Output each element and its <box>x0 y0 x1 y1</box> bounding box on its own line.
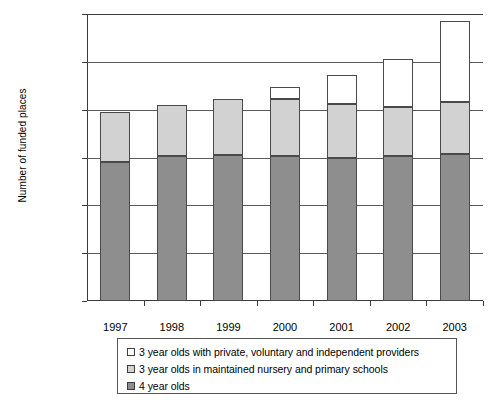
bar-segment <box>383 107 413 157</box>
plot-area: 0200,000400,000600,000800,0001,000,0001,… <box>87 14 483 301</box>
x-tick-mark <box>483 301 484 306</box>
x-tick-mark <box>200 301 201 306</box>
bar-segment <box>327 104 357 158</box>
legend-item: 3 year olds in maintained nursery and pr… <box>127 361 456 377</box>
bar-2003 <box>440 14 470 301</box>
legend-swatch-icon <box>127 365 135 373</box>
bar-segment <box>213 99 243 155</box>
y-tick-mark <box>82 110 87 111</box>
x-tick-mark <box>313 301 314 306</box>
bar-segment <box>270 87 300 99</box>
legend-label: 3 year olds in maintained nursery and pr… <box>139 363 388 375</box>
x-tick-mark <box>144 301 145 306</box>
y-tick-mark <box>82 62 87 63</box>
bar-segment <box>440 154 470 301</box>
bar-segment <box>157 105 187 156</box>
y-tick-mark <box>82 253 87 254</box>
bar-1998 <box>157 14 187 301</box>
x-tick-mark <box>426 301 427 306</box>
y-tick-mark <box>82 14 87 15</box>
bar-segment <box>327 158 357 302</box>
bar-1999 <box>213 14 243 301</box>
legend-swatch-icon <box>127 348 135 356</box>
x-tick-label: 2000 <box>255 321 315 333</box>
x-tick-mark <box>257 301 258 306</box>
bar-segment <box>100 112 130 162</box>
bar-segment <box>100 162 130 301</box>
bar-segment <box>383 156 413 301</box>
bar-segment <box>157 156 187 301</box>
legend-swatch-icon <box>127 382 135 390</box>
x-tick-mark <box>370 301 371 306</box>
bar-segment <box>213 155 243 301</box>
x-tick-label: 2003 <box>425 321 485 333</box>
bar-2000 <box>270 14 300 301</box>
y-axis-title: Number of funded places <box>17 46 28 246</box>
y-tick-mark <box>82 158 87 159</box>
bar-segment <box>270 156 300 301</box>
x-tick-label: 2001 <box>312 321 372 333</box>
legend-item: 4 year olds <box>127 378 456 394</box>
stacked-bar-chart: Number of funded places 0200,000400,0006… <box>0 0 489 405</box>
x-tick-label: 1998 <box>142 321 202 333</box>
legend-item: 3 year olds with private, voluntary and … <box>127 344 456 360</box>
x-tick-label: 1999 <box>198 321 258 333</box>
bar-2002 <box>383 14 413 301</box>
legend-label: 3 year olds with private, voluntary and … <box>139 346 419 358</box>
x-tick-label: 1997 <box>85 321 145 333</box>
bar-segment <box>270 99 300 156</box>
bar-segment <box>440 102 470 153</box>
y-tick-mark <box>82 205 87 206</box>
bar-2001 <box>327 14 357 301</box>
bar-segment <box>383 59 413 106</box>
x-tick-label: 2002 <box>368 321 428 333</box>
legend-label: 4 year olds <box>139 380 190 392</box>
chart-legend: 3 year olds with private, voluntary and … <box>117 338 457 394</box>
bar-1997 <box>100 14 130 301</box>
bar-segment <box>327 75 357 103</box>
y-tick-mark <box>82 301 87 302</box>
bar-segment <box>440 21 470 102</box>
